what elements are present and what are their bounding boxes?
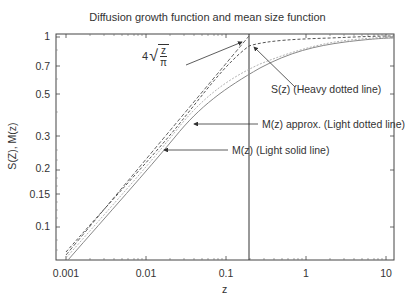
annotation-m-approx: M(z) approx. (Light dotted line) — [262, 118, 405, 130]
y-tick-label: 0.7 — [10, 60, 50, 72]
y-tick-label: 1 — [10, 30, 50, 42]
curve-s-heavy-dotted — [66, 36, 394, 252]
x-tick-label: 0.1 — [206, 267, 246, 279]
y-tick-label: 0.15 — [10, 188, 50, 200]
x-axis-label: z — [222, 283, 227, 295]
formula-fraction: z π — [158, 44, 169, 68]
x-tick-label: 0.01 — [126, 267, 166, 279]
arrow-sqrt — [186, 42, 242, 65]
annotation-s: S(z) (Heavy dotted line) — [271, 83, 381, 95]
y-tick-label: 0.5 — [10, 88, 50, 100]
x-tick-label: 0.001 — [46, 267, 86, 279]
formula-den: π — [160, 57, 167, 68]
annotation-sqrt-formula: 4 √ z π — [142, 44, 169, 68]
curve-m-approx-light-dotted — [66, 37, 394, 258]
curve-sqrt-approx — [66, 36, 249, 255]
arrow-s — [254, 47, 295, 87]
formula-num: z — [160, 45, 167, 57]
y-axis-label: S(Z), M(z) — [6, 116, 18, 176]
x-tick-label: 1 — [286, 267, 326, 279]
formula-coef: 4 — [142, 50, 148, 62]
sqrt-icon: √ — [149, 47, 158, 65]
annotation-m: M(z) (Light solid line) — [232, 144, 329, 156]
x-ticks — [66, 34, 386, 260]
y-tick-label: 0.1 — [10, 220, 50, 232]
plot-frame — [56, 34, 394, 260]
x-tick-label: 10 — [366, 267, 406, 279]
curve-m-solid — [68, 38, 394, 260]
plot-area — [0, 0, 415, 305]
